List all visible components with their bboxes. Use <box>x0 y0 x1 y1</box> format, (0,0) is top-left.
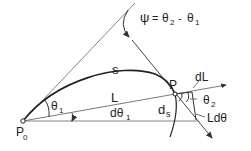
label-ds-sub: s <box>166 109 171 119</box>
label-psi: ψ <box>140 10 149 25</box>
label-theta2-sub: 2 <box>170 18 175 27</box>
curve-s <box>23 70 175 121</box>
label-Ldtheta: Ldθ <box>207 111 227 125</box>
label-angle-theta2: θ <box>203 93 210 107</box>
arc-at-P <box>179 93 182 101</box>
label-P: P <box>169 78 177 92</box>
label-theta1-sub: 1 <box>195 18 200 27</box>
curve-ds <box>170 94 176 137</box>
arc-theta2 <box>186 93 189 102</box>
label-ds: d <box>158 102 165 117</box>
point-P <box>173 92 177 96</box>
label-minus: - <box>178 12 182 24</box>
label-angle-theta2-sub: 2 <box>211 100 216 109</box>
arc-dtheta1 <box>72 113 73 121</box>
label-theta1: θ <box>187 11 194 25</box>
label-angle-theta1-sub: 1 <box>59 106 64 115</box>
label-L: L <box>111 90 118 105</box>
label-angle-theta1: θ <box>51 99 58 113</box>
label-dtheta1: dθ <box>110 106 124 120</box>
label-dL: dL <box>195 70 209 84</box>
label-dtheta1-sub: 1 <box>126 113 131 122</box>
geometry-diagram: ψ = θ 2 - θ 1 s P dL θ 1 L dθ 1 θ 2 d s … <box>0 0 251 151</box>
label-s: s <box>112 62 119 77</box>
arc-theta1 <box>44 99 49 117</box>
label-theta2: θ <box>162 11 169 25</box>
label-eq: = <box>152 12 158 24</box>
point-P0 <box>21 119 25 123</box>
leader-Ldtheta <box>196 114 205 117</box>
label-P0-sub: 0 <box>23 133 28 142</box>
